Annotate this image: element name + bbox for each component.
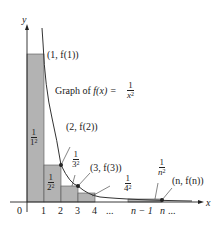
rect-label-n: 1 n2 [158, 158, 166, 177]
tick-ellipsis-2: ... [168, 206, 176, 216]
rect-label-4: 1 42 [124, 174, 132, 193]
tick-2: 2 [58, 206, 63, 216]
rect-label-2: 1 22 [47, 173, 55, 192]
tick-ellipsis-1: ... [106, 206, 114, 216]
rect-label-3: 1 32 [72, 150, 80, 169]
function-label: Graph of f(x) = [55, 86, 116, 96]
point-label-2: (2, f(2)) [66, 122, 98, 132]
point-label-1: (1, f(1)) [47, 50, 79, 60]
rect-label-1: 1 12 [30, 128, 38, 147]
rect-4 [78, 193, 95, 202]
rect-3 [61, 186, 78, 202]
tick-n-minus-1: n − 1 [131, 206, 153, 216]
graph-canvas [0, 0, 221, 228]
function-fraction: 1 x2 [127, 81, 134, 100]
tick-4: 4 [92, 206, 97, 216]
tick-n: n [160, 206, 165, 216]
tick-0: 0 [17, 206, 22, 216]
tick-1: 1 [41, 206, 46, 216]
point-label-n: (n, f(n)) [172, 176, 204, 186]
x-arrow-icon [198, 200, 204, 204]
x-axis-label: x [206, 198, 210, 208]
tick-3: 3 [75, 206, 80, 216]
point-label-3: (3, f(3)) [90, 163, 122, 173]
y-axis-label: y [22, 15, 26, 25]
